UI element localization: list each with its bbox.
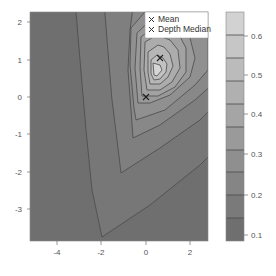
y-tick-label: 0 bbox=[18, 93, 23, 102]
x-tick-label: 2 bbox=[188, 248, 193, 257]
x-tick-label: -2 bbox=[97, 248, 105, 257]
legend-mean-label: Mean bbox=[158, 14, 180, 24]
colorbar-tick-label: 0.5 bbox=[251, 71, 263, 80]
x-tick-label: 0 bbox=[144, 248, 149, 257]
y-tick-label: 2 bbox=[18, 18, 23, 27]
colorbar-tick-label: 0.6 bbox=[251, 32, 263, 41]
colorbar-tick-label: 0.4 bbox=[251, 110, 263, 119]
legend-median-label: Depth Median bbox=[158, 24, 211, 34]
x-tick-label: -4 bbox=[53, 248, 61, 257]
colorbar-tick-label: 0.2 bbox=[251, 191, 263, 200]
y-tick-label: -2 bbox=[15, 168, 23, 177]
contour-chart: Mean Depth Median 2 1 0 -1 -2 -3 -4 -2 0… bbox=[0, 0, 276, 276]
x-axis: -4 -2 0 2 bbox=[53, 241, 192, 257]
y-tick-label: 1 bbox=[18, 56, 23, 65]
y-tick-label: -1 bbox=[15, 130, 23, 139]
y-axis: 2 1 0 -1 -2 -3 bbox=[15, 18, 30, 214]
colorbar-tick-label: 0.1 bbox=[251, 231, 263, 240]
legend: Mean Depth Median bbox=[145, 12, 211, 38]
colorbar-tick-label: 0.3 bbox=[251, 150, 263, 159]
colorbar: 0.6 0.5 0.4 0.3 0.2 0.1 bbox=[226, 12, 263, 241]
y-tick-label: -3 bbox=[15, 205, 23, 214]
